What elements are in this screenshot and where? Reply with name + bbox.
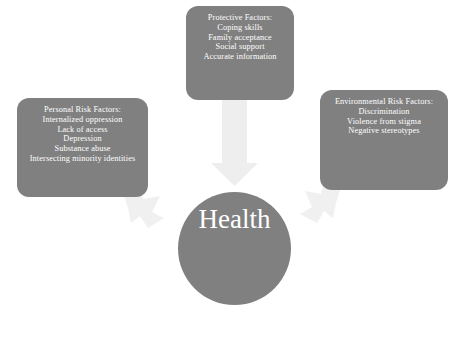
box-protective-item-2: Family acceptance <box>208 33 272 43</box>
box-environmental-item-3: Negative stereotypes <box>348 126 419 136</box>
box-protective-item-4: Accurate information <box>203 52 276 62</box>
box-environmental-risk-factors: Environmental Risk Factors: Discriminati… <box>320 90 448 190</box>
box-personal-item-1: Internalized oppression <box>43 115 123 125</box>
box-environmental-heading: Environmental Risk Factors: <box>335 97 433 107</box>
box-personal-risk-factors: Personal Risk Factors: Internalized oppr… <box>17 98 148 197</box>
health-circle-label: Health <box>199 206 271 233</box>
box-environmental-item-1: Discrimination <box>358 107 409 117</box>
box-protective-heading: Protective Factors: <box>208 13 272 23</box>
box-environmental-item-2: Violence from stigma <box>347 117 421 127</box>
box-personal-heading: Personal Risk Factors: <box>44 105 121 115</box>
box-personal-item-4: Substance abuse <box>54 144 110 154</box>
box-protective-factors: Protective Factors: Coping skills Family… <box>186 6 294 100</box>
arrow-protective-to-health-icon <box>211 100 258 186</box>
box-personal-item-3: Depression <box>63 134 101 144</box>
box-protective-item-1: Coping skills <box>217 23 262 33</box>
box-personal-item-5: Intersecting minority identities <box>30 154 136 164</box>
diagram-canvas: Protective Factors: Coping skills Family… <box>0 0 456 340</box>
box-protective-item-3: Social support <box>215 42 264 52</box>
health-outcome-circle: Health <box>178 192 291 305</box>
box-personal-item-2: Lack of access <box>57 125 107 135</box>
